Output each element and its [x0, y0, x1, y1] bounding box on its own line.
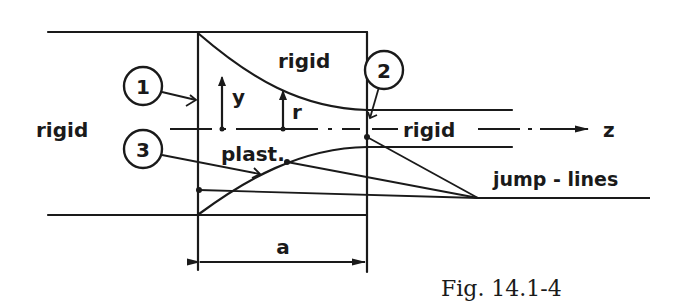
- label-axis-z: z: [603, 118, 615, 142]
- leader-1-tip-icon: [186, 95, 196, 106]
- jump-point-right: [364, 134, 370, 140]
- marker-1: 1: [124, 67, 162, 105]
- marker-2: 2: [365, 51, 403, 89]
- dimension-a-label: a: [276, 235, 290, 259]
- label-plastic: plast.: [221, 142, 285, 166]
- r-origin-dot: [281, 127, 286, 132]
- svg-text:2: 2: [377, 59, 391, 83]
- label-jump-lines: jump - lines: [492, 168, 618, 190]
- leader-2: [370, 87, 379, 118]
- jump-point-mid: [284, 159, 290, 165]
- label-coord-r: r: [292, 100, 302, 124]
- label-coord-y: y: [232, 85, 245, 109]
- label-rigid-left: rigid: [36, 118, 88, 142]
- diagram-canvas: 1 2 3 a rigid rigid rigid plast. jump - …: [0, 0, 681, 308]
- label-rigid-right: rigid: [403, 118, 455, 142]
- svg-text:1: 1: [136, 75, 150, 99]
- jump-point-left: [196, 187, 202, 193]
- marker-3: 3: [124, 130, 162, 168]
- label-rigid-top: rigid: [278, 49, 330, 73]
- y-origin-dot: [220, 127, 225, 132]
- figure-caption: Fig. 14.1-4: [441, 276, 562, 301]
- leader-2-tip-icon: [368, 112, 377, 118]
- figure-14-1-4: 1 2 3 a rigid rigid rigid plast. jump - …: [0, 0, 681, 308]
- svg-text:3: 3: [136, 138, 150, 162]
- jump-line-1: [199, 190, 478, 198]
